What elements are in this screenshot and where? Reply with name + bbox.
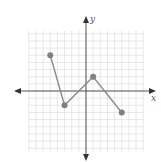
data-point xyxy=(62,102,68,108)
coordinate-plane: y x xyxy=(0,0,161,162)
axes: y x xyxy=(14,14,156,161)
x-axis-left-arrow-icon xyxy=(14,88,21,94)
y-axis-top-arrow-icon xyxy=(83,16,89,23)
data-point xyxy=(47,52,53,58)
y-axis-label: y xyxy=(89,14,96,24)
data-point xyxy=(119,109,125,115)
x-axis-label: x xyxy=(151,93,156,103)
data-point xyxy=(90,74,96,80)
y-axis-bottom-arrow-icon xyxy=(83,154,89,161)
